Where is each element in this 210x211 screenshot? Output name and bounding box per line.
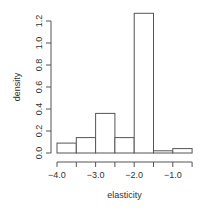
y-tick-label: 0.8 (34, 59, 44, 72)
histogram-bar (76, 138, 95, 153)
x-tick-label: −3.0 (87, 170, 105, 180)
histogram-bar (134, 13, 153, 153)
histogram-chart: 0.00.20.40.60.81.01.2density−4.0−3.0−2.0… (0, 0, 210, 211)
histogram-bar (115, 138, 134, 153)
x-tick-label: −2.0 (125, 170, 143, 180)
y-tick-label: 1.2 (34, 15, 44, 28)
y-tick-label: 0.6 (34, 81, 44, 94)
histogram-bar (154, 151, 173, 153)
y-tick-label: 0.0 (34, 147, 44, 160)
y-tick-label: 0.4 (34, 103, 44, 116)
x-tick-label: −4.0 (48, 170, 66, 180)
x-tick-label: −1.0 (164, 170, 182, 180)
histogram-bar (57, 143, 76, 153)
histogram-bar (173, 149, 192, 153)
y-tick-label: 1.0 (34, 37, 44, 50)
histogram-bar (96, 113, 115, 153)
y-axis-title: density (12, 72, 22, 101)
y-tick-label: 0.2 (34, 125, 44, 138)
x-axis-title: elasticity (107, 190, 142, 200)
